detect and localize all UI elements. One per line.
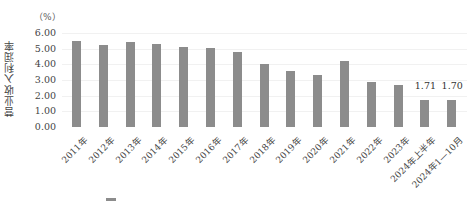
bar [447,100,456,127]
bar [152,44,161,127]
gridline [62,33,467,34]
bar [233,52,242,127]
x-tick-label: 2015年 [166,134,198,166]
x-tick-label: 2018年 [246,134,278,166]
bar [126,42,135,127]
y-axis-unit: （%） [34,10,61,23]
x-tick-label: 2021年 [326,134,358,166]
x-tick-label: 2017年 [219,134,251,166]
bar [367,82,376,127]
x-tick-label: 2011年 [58,134,90,166]
legend-swatch [106,198,116,201]
x-tick-label: 2016年 [192,134,224,166]
gridline [62,49,467,50]
bar [420,100,429,127]
bar [206,48,215,127]
bar [260,64,269,127]
bar [340,61,349,127]
x-tick-label: 2014年 [139,134,171,166]
data-label: 1.71 [410,80,440,91]
bar [394,85,403,127]
x-tick-label: 2022年 [353,134,385,166]
y-tick-label: 4.00 [30,59,56,69]
y-tick-label: 3.00 [30,75,56,85]
y-tick-label: 0.00 [30,122,56,132]
y-axis-title: 营业收入利润率 [4,40,18,117]
bar [313,75,322,127]
x-tick-label: 2019年 [273,134,305,166]
bar [99,45,108,127]
y-tick-label: 2.00 [30,91,56,101]
y-tick-label: 1.00 [30,106,56,116]
x-tick-label: 2012年 [85,134,117,166]
bar [179,47,188,127]
x-tick-label: 2013年 [112,134,144,166]
x-tick-label: 2020年 [300,134,332,166]
bar [286,71,295,127]
data-label: 1.70 [437,80,467,91]
y-tick-label: 6.00 [30,28,56,38]
bar [72,41,81,127]
bar-chart: （%） 营业收入利润率 0.001.002.003.004.005.006.00… [0,0,473,201]
y-tick-label: 5.00 [30,44,56,54]
